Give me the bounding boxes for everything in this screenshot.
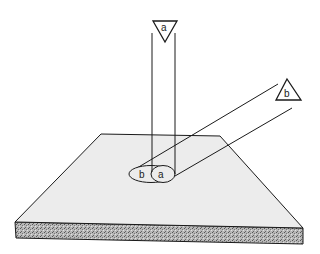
source-b-triangle-icon: b [276, 79, 301, 100]
footprint-a-label: a [158, 169, 164, 180]
source-a-label: a [161, 22, 167, 33]
source-a-triangle-icon: a [153, 21, 177, 42]
footprint-b-label: b [139, 169, 145, 180]
source-b-label: b [284, 88, 290, 99]
diagram-canvas: b a a b [0, 0, 320, 254]
